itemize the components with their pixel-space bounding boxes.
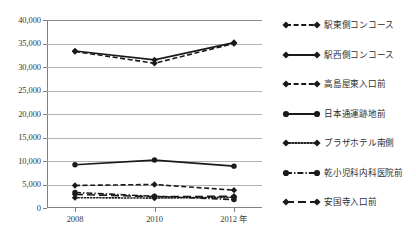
legend-item[interactable]: プラザホテル南側 <box>283 136 416 150</box>
x-axis-tick-label: 2008 <box>45 215 105 224</box>
legend-item[interactable]: 駅東側コンコース <box>283 18 416 32</box>
y-axis-tick-label: 0 <box>37 204 41 213</box>
legend-line-sample-icon <box>283 137 320 149</box>
y-axis-tick-label: 5,000 <box>22 180 41 189</box>
legend-line-sample-icon <box>283 19 320 31</box>
legend-line-sample-icon <box>283 49 320 61</box>
x-tick-mark <box>234 208 235 212</box>
x-tick-mark <box>155 208 156 212</box>
y-axis-tick-label: 40,000 <box>18 16 41 25</box>
legend-label: プラザホテル南側 <box>324 138 394 148</box>
series-1 <box>72 39 237 63</box>
y-axis-tick-label: 20,000 <box>18 110 41 119</box>
line-chart: 05,00010,00015,00020,00025,00030,00035,0… <box>0 0 416 240</box>
legend: 駅東側コンコース駅西側コンコース高島屋東入口前日本通運跡地前プラザホテル南側乾小… <box>283 18 416 228</box>
x-tick-mark <box>75 208 76 212</box>
legend-item[interactable]: 安国寺入口前 <box>283 195 416 209</box>
x-axis-tick-label: 2010 <box>125 215 185 224</box>
legend-line-sample-icon <box>283 108 320 120</box>
series-2 <box>72 181 237 193</box>
y-tick-mark <box>43 208 47 209</box>
x-axis-tick-label: 2012 年 <box>204 215 264 224</box>
y-axis-tick-label: 15,000 <box>18 133 41 142</box>
y-axis-tick-label: 35,000 <box>18 39 41 48</box>
legend-item[interactable]: 日本通運跡地前 <box>283 107 416 121</box>
legend-label: 高島屋東入口前 <box>324 79 385 89</box>
legend-item[interactable]: 乾小児科内科医院前 <box>283 166 416 180</box>
legend-label: 駅西側コンコース <box>324 50 394 60</box>
legend-label: 乾小児科内科医院前 <box>324 168 403 178</box>
series-3 <box>72 157 236 169</box>
legend-item[interactable]: 高島屋東入口前 <box>283 77 416 91</box>
legend-line-sample-icon <box>283 167 320 179</box>
legend-label: 安国寺入口前 <box>324 197 377 207</box>
y-axis-tick-label: 25,000 <box>18 86 41 95</box>
legend-label: 日本通運跡地前 <box>324 109 385 119</box>
plot-area <box>47 20 262 208</box>
y-axis-tick-label: 10,000 <box>18 157 41 166</box>
legend-label: 駅東側コンコース <box>324 20 394 30</box>
legend-line-sample-icon <box>283 78 320 90</box>
series-layer <box>47 20 262 208</box>
legend-item[interactable]: 駅西側コンコース <box>283 48 416 62</box>
legend-line-sample-icon <box>283 196 320 208</box>
y-axis-tick-label: 30,000 <box>18 63 41 72</box>
